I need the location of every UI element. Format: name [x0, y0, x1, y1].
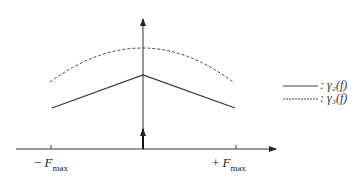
- label-neg-fmax: − Fmax: [34, 155, 68, 173]
- tick-symbol: F: [45, 155, 53, 170]
- tick-subscript: max: [231, 163, 247, 173]
- tick-symbol: F: [223, 155, 231, 170]
- legend-gamma3-label: : γ₃(f): [320, 91, 347, 106]
- gamma3-curve: [50, 48, 233, 82]
- spectrum-diagram: [0, 0, 364, 179]
- tick-sign: +: [212, 155, 219, 170]
- label-pos-fmax: + Fmax: [212, 155, 246, 173]
- tick-sign: −: [34, 155, 41, 170]
- tick-subscript: max: [53, 163, 69, 173]
